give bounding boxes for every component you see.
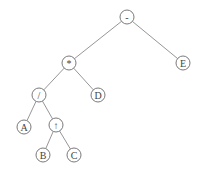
edge-n6-n8 [60,131,71,149]
edge-n1-n3 [44,68,64,90]
tree-node: A [17,120,31,134]
edges [27,21,178,149]
edge-n0-n2 [132,21,177,58]
tree-node: E [176,56,190,70]
node-label: B [40,150,47,161]
edge-n6-n7 [46,131,53,148]
node-label: D [94,90,101,101]
edge-n1-n4 [74,68,94,90]
node-label: * [67,58,72,69]
tree-node: * [62,56,76,70]
edge-n0-n1 [74,21,121,58]
node-label: / [38,90,41,101]
edge-n3-n5 [27,101,36,120]
tree-node: C [67,148,81,162]
nodes: -*E/DA↑BC [17,10,190,162]
node-label: C [71,150,78,161]
expression-tree-diagram: -*E/DA↑BC [0,0,203,177]
tree-node: ↑ [49,118,63,132]
tree-node: - [120,10,134,24]
tree-node: / [32,88,46,102]
edge-n3-n6 [42,101,52,119]
node-label: E [180,58,186,69]
tree-node: B [36,148,50,162]
node-label: A [20,122,28,133]
tree-node: D [91,88,105,102]
node-label: ↑ [54,120,59,131]
node-label: - [125,12,128,23]
